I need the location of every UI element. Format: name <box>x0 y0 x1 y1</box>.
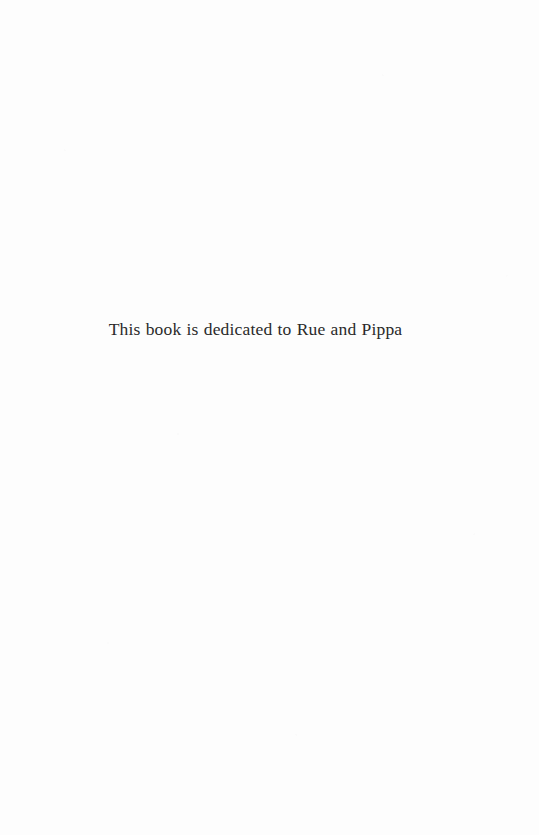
dedication-text: This book is dedicated to Rue and Pippa <box>109 317 403 341</box>
dedication-block: This book is dedicated to Rue and Pippa <box>0 299 539 358</box>
paper-texture <box>0 0 539 835</box>
book-page: This book is dedicated to Rue and Pippa <box>0 0 539 835</box>
